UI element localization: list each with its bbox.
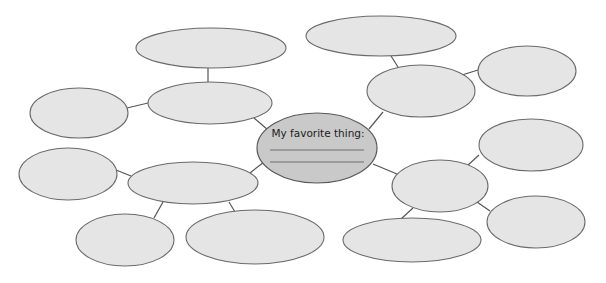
connector-ur-right	[462, 70, 478, 75]
connector-ll-bottom-left	[154, 202, 163, 218]
bubble-ur-main[interactable]	[367, 65, 475, 117]
connector-lr-right	[477, 202, 490, 211]
center-bubble[interactable]: My favorite thing:	[257, 113, 377, 183]
bubble-lr-top[interactable]	[479, 119, 583, 171]
bubble-ll-main[interactable]	[128, 162, 258, 204]
connector-ll-bottom-right	[229, 202, 235, 212]
connector-center-lr	[373, 164, 397, 174]
bubble-ll-bottom-right[interactable]	[186, 210, 324, 264]
bubble-ll-bottom-left[interactable]	[76, 214, 174, 266]
bubble-ur-right[interactable]	[478, 46, 576, 96]
bubble-ul-left[interactable]	[30, 88, 128, 138]
connector-lr-bottom	[401, 208, 413, 219]
bubble-ul-top[interactable]	[136, 28, 286, 68]
connector-center-ur	[369, 112, 383, 129]
bubble-ul-main[interactable]	[148, 82, 272, 124]
bubble-ur-top[interactable]	[306, 16, 456, 56]
bubble-lr-main[interactable]	[392, 160, 488, 212]
connector-center-ll	[250, 162, 264, 173]
connector-center-ul	[254, 118, 268, 130]
center-label: My favorite thing:	[271, 127, 364, 139]
center-ellipse[interactable]	[257, 113, 377, 183]
bubble-lr-right[interactable]	[487, 196, 585, 248]
bubble-lr-bottom[interactable]	[343, 218, 481, 262]
connector-ur-top	[391, 56, 398, 67]
connector-lr-top	[467, 155, 479, 166]
bubble-ll-left[interactable]	[19, 148, 117, 200]
connector-ll-left	[116, 170, 131, 176]
bubble-map-diagram: My favorite thing:	[0, 0, 606, 283]
connector-ul-left	[127, 103, 148, 108]
